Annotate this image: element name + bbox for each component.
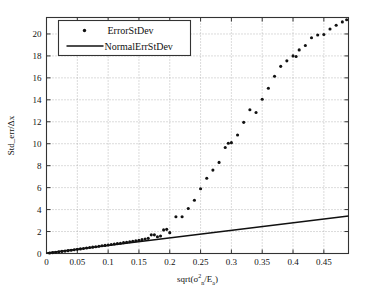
data-point (187, 207, 190, 210)
x-tick-label: 0.1 (103, 257, 114, 267)
data-point (279, 65, 282, 68)
data-point (205, 177, 208, 180)
data-point (70, 249, 73, 252)
data-point (341, 20, 344, 23)
data-point (304, 44, 307, 47)
data-point (85, 246, 88, 249)
data-point (140, 238, 143, 241)
data-point (218, 161, 221, 164)
x-title-suffix: ) (215, 274, 218, 284)
data-point (298, 48, 301, 51)
data-point (193, 199, 196, 202)
data-point (110, 243, 113, 246)
data-point (122, 241, 125, 244)
y-tick-label: 10 (33, 139, 43, 149)
data-point (54, 251, 57, 254)
x-tick-label: 0.4 (287, 257, 299, 267)
data-point (211, 169, 214, 172)
data-point (63, 250, 66, 253)
legend-label-normalerrstdev: NormalErrStDev (105, 41, 173, 52)
data-point (91, 246, 94, 249)
data-point (273, 75, 276, 78)
data-point (261, 98, 264, 101)
data-point (137, 239, 140, 242)
y-tick-label: 2 (37, 227, 42, 237)
data-point (316, 34, 319, 37)
data-point (291, 54, 294, 57)
data-point (76, 248, 79, 251)
x-axis-title: sqrt(σ2n/Ea) (177, 273, 218, 286)
data-point (224, 146, 227, 149)
data-point (116, 242, 119, 245)
y-tick-label: 12 (33, 117, 42, 127)
data-point (248, 108, 251, 111)
data-point (97, 245, 100, 248)
chart-figure: 00.050.10.150.20.250.30.350.40.45 024681… (0, 0, 365, 299)
x-tick-label: 0.45 (316, 257, 332, 267)
data-point (125, 241, 128, 244)
y-axis-title-text: Std_err/Δx (6, 115, 16, 155)
x-title-sigma-exponent: 2 (198, 273, 201, 279)
data-point (82, 247, 85, 250)
x-tick-label: 0.2 (164, 257, 175, 267)
x-tick-label: 0.35 (254, 257, 270, 267)
x-axis-title-text: sqrt(σ2n/Ea) (177, 273, 218, 286)
data-point (113, 243, 116, 246)
y-tick-label: 8 (37, 161, 42, 171)
data-point (88, 246, 91, 249)
y-tick-label: 20 (33, 29, 43, 39)
y-tick-label: 6 (37, 183, 42, 193)
x-tick-label: 0.15 (131, 257, 147, 267)
scatter-plot: 00.050.10.150.20.250.30.350.40.45 024681… (0, 0, 365, 299)
data-point (73, 248, 76, 251)
data-point (57, 250, 60, 253)
data-point (335, 24, 338, 27)
legend-label-errorstdev: ErrorStDev (108, 25, 154, 36)
y-axis-tick-labels: 02468101214161820 (33, 29, 43, 259)
data-point (107, 243, 110, 246)
x-tick-label: 0.05 (69, 257, 85, 267)
x-axis-tick-labels: 00.050.10.150.20.250.30.350.40.45 (44, 257, 332, 267)
data-point (255, 111, 258, 114)
y-axis-title: Std_err/Δx (6, 115, 16, 155)
data-point (100, 244, 103, 247)
data-point (134, 239, 137, 242)
data-point (168, 231, 171, 234)
data-point (227, 142, 230, 145)
data-point (156, 235, 159, 238)
data-point (153, 233, 156, 236)
data-point (236, 133, 239, 136)
data-point (51, 251, 54, 254)
data-point (104, 244, 107, 247)
legend: ErrorStDev NormalErrStDev (59, 21, 191, 56)
x-tick-label: 0 (44, 257, 49, 267)
data-point (328, 27, 331, 30)
data-point (230, 141, 233, 144)
data-point (267, 87, 270, 90)
data-point (144, 237, 147, 240)
data-point (295, 55, 298, 58)
y-tick-label: 14 (33, 95, 43, 105)
data-point (242, 121, 245, 124)
data-point (181, 215, 184, 218)
data-point (159, 234, 162, 237)
data-point (199, 187, 202, 190)
x-tick-label: 0.25 (193, 257, 209, 267)
data-point (94, 245, 97, 248)
data-point (79, 247, 82, 250)
legend-marker-dot (83, 29, 86, 32)
data-point (174, 215, 177, 218)
data-point (165, 228, 168, 231)
x-tick-label: 0.3 (226, 257, 238, 267)
data-point (322, 33, 325, 36)
data-point (162, 228, 165, 231)
y-tick-label: 4 (37, 205, 42, 215)
y-tick-label: 16 (33, 73, 43, 83)
x-title-prefix: sqrt( (177, 274, 194, 284)
data-point (345, 18, 348, 21)
data-point (150, 233, 153, 236)
data-point (131, 240, 134, 243)
y-tick-label: 0 (37, 249, 42, 259)
data-point (128, 240, 131, 243)
data-point (119, 242, 122, 245)
